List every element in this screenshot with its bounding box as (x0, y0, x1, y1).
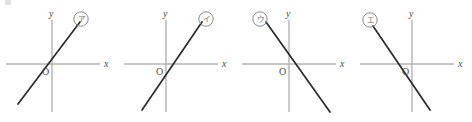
graph-panel-c: ウ x y O (236, 0, 354, 122)
origin-label: O (279, 66, 286, 77)
y-axis-label: y (48, 8, 54, 19)
figure-root: ア x y O イ x y O ウ x y O (0, 0, 472, 122)
y-axis-label: y (162, 8, 168, 19)
x-axis-label: x (339, 58, 345, 69)
graph-panel-a: ア x y O (0, 0, 118, 122)
y-axis-label: y (408, 8, 414, 19)
panel-marker-label: エ (367, 16, 374, 25)
x-axis-label: x (221, 58, 227, 69)
x-axis-label: x (103, 58, 109, 69)
panel-marker-label: ウ (257, 15, 264, 24)
panel-marker-label: ア (78, 15, 85, 24)
graph-panel-b: イ x y O (118, 0, 236, 122)
origin-label: O (402, 66, 409, 77)
y-axis-label: y (285, 8, 291, 19)
line-graph (142, 22, 202, 110)
x-axis-label: x (457, 58, 463, 69)
origin-label: O (156, 66, 163, 77)
graph-panel-d: エ x y O (354, 0, 472, 122)
panel-marker-label: イ (203, 15, 210, 24)
line-graph (18, 22, 80, 104)
line-graph (266, 22, 330, 112)
origin-label: O (42, 66, 49, 77)
